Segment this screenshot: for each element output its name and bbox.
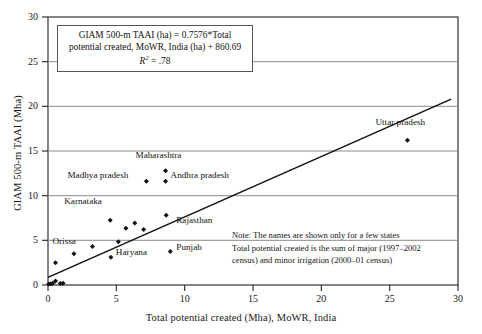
y-tick-label-15: 15 <box>12 145 38 156</box>
x-tick-label-15: 15 <box>240 293 266 304</box>
x-axis-ticks <box>48 285 458 291</box>
x-tick-label-5: 5 <box>103 293 129 304</box>
point-label-haryana: Haryana <box>116 247 147 257</box>
note-line-3: census) and minor irrigation (2000–01 ce… <box>232 254 460 267</box>
r-squared-value: .78 <box>159 56 171 66</box>
y-axis-ticks <box>42 17 48 285</box>
y-tick-label-20: 20 <box>12 100 38 111</box>
y-tick-label-10: 10 <box>12 190 38 201</box>
y-tick-label-25: 25 <box>12 56 38 67</box>
point-label-uttar-pradesh: Uttar pradesh <box>375 117 425 127</box>
y-tick-label-5: 5 <box>12 234 38 245</box>
note-line-1: Note: The names are shown only for a few… <box>232 229 460 242</box>
x-tick-label-30: 30 <box>445 293 471 304</box>
r-squared-equals: = <box>149 56 159 66</box>
x-tick-label-25: 25 <box>377 293 403 304</box>
x-axis-title: Total potential created (Mha), MoWR, Ind… <box>0 312 482 323</box>
point-label-orissa: Orissa <box>52 236 75 246</box>
r-squared-line: R2 = .78 <box>62 54 248 68</box>
x-tick-label-10: 10 <box>172 293 198 304</box>
equation-line-1: GIAM 500-m TAAI (ha) = 0.7576*Total <box>62 29 248 41</box>
x-tick-label-0: 0 <box>35 293 61 304</box>
point-label-punjab: Punjab <box>176 242 202 252</box>
x-tick-label-20: 20 <box>308 293 334 304</box>
regression-equation-box: GIAM 500-m TAAI (ha) = 0.7576*Total pote… <box>57 25 253 72</box>
y-tick-label-0: 0 <box>12 279 38 290</box>
scatter-chart-figure: GIAM 500-m TAAI (ha) = 0.7576*Total pote… <box>0 0 482 334</box>
point-label-karnataka: Karnataka <box>64 196 102 206</box>
equation-line-2: potential created, MoWR, India (ha) + 86… <box>62 41 248 53</box>
chart-note: Note: The names are shown only for a few… <box>232 229 460 267</box>
point-label-madhya-pradesh: Madhya pradesh <box>67 170 128 180</box>
y-tick-label-30: 30 <box>12 11 38 22</box>
note-line-2: Total potential created is the sum of ma… <box>232 242 460 255</box>
point-label-maharashtra: Maharashtra <box>136 150 182 160</box>
point-label-rajasthan: Rajasthan <box>176 215 212 225</box>
point-label-andhra-pradesh: Andhra pradesh <box>171 170 229 180</box>
